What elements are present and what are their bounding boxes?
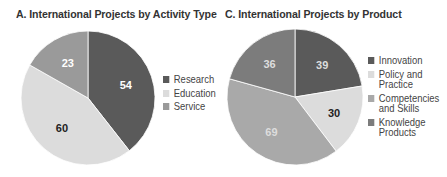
- pie-slice: [295, 29, 362, 97]
- chart-c-legend: InnovationPolicy and PracticeCompetencie…: [368, 55, 442, 141]
- slice-value-label: 39: [316, 59, 328, 71]
- legend-item: Knowledge Products: [368, 117, 442, 138]
- legend-swatch: [368, 57, 374, 64]
- legend-item: Competencies and Skills: [368, 93, 442, 114]
- legend-swatch: [163, 103, 169, 110]
- legend-item: Policy and Practice: [368, 69, 442, 90]
- chart-a-pie: 546023: [18, 30, 158, 170]
- legend-swatch: [368, 119, 374, 126]
- chart-a-title: A. International Projects by Activity Ty…: [16, 8, 217, 20]
- slice-value-label: 60: [56, 122, 68, 134]
- slice-value-label: 54: [120, 79, 133, 91]
- legend-swatch: [163, 90, 169, 97]
- legend-swatch: [368, 95, 374, 102]
- chart-c-pie: 39306936: [225, 29, 365, 169]
- chart-c-title: C. International Projects by Product: [225, 8, 402, 20]
- legend-label: Competencies and Skills: [379, 93, 442, 114]
- slice-value-label: 69: [265, 126, 277, 138]
- legend-label: Policy and Practice: [379, 69, 442, 90]
- legend-label: Innovation: [379, 55, 442, 66]
- legend-swatch: [163, 76, 169, 83]
- slice-value-label: 23: [62, 57, 74, 69]
- legend-swatch: [368, 71, 374, 78]
- slice-value-label: 36: [263, 58, 275, 70]
- legend-item: Innovation: [368, 55, 442, 66]
- legend-label: Knowledge Products: [379, 117, 442, 138]
- slice-value-label: 30: [328, 107, 340, 119]
